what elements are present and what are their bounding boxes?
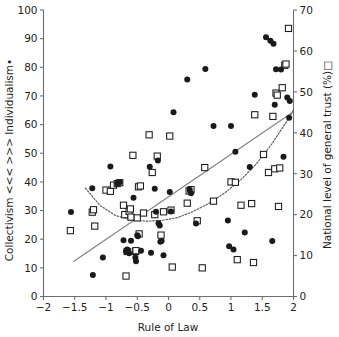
series-trust-markers bbox=[67, 25, 291, 279]
series-individualism-markers bbox=[68, 34, 293, 278]
y-right-tick-label: 0 bbox=[300, 290, 307, 302]
data-point-trust bbox=[149, 169, 155, 175]
data-point-trust bbox=[252, 112, 258, 118]
data-point-trust bbox=[250, 259, 256, 265]
y-left-tick-label: 100 bbox=[17, 4, 37, 16]
y-axis-left-ticks: 0102030405060708090100 bbox=[17, 4, 43, 303]
data-point-individualism bbox=[157, 222, 163, 228]
data-point-individualism bbox=[252, 92, 258, 98]
data-point-trust bbox=[274, 92, 280, 98]
data-point-individualism bbox=[231, 247, 237, 253]
data-point-individualism bbox=[138, 248, 144, 254]
data-point-individualism bbox=[152, 186, 158, 192]
data-point-individualism bbox=[147, 164, 153, 170]
data-point-individualism bbox=[126, 250, 132, 256]
data-point-individualism bbox=[89, 185, 95, 191]
y-left-tick-label: 80 bbox=[24, 61, 37, 73]
x-tick-label: −2 bbox=[36, 301, 51, 313]
data-point-individualism bbox=[269, 238, 275, 244]
data-point-trust bbox=[283, 61, 289, 67]
data-point-trust bbox=[130, 152, 136, 158]
data-point-trust bbox=[169, 264, 175, 270]
y-left-tick-label: 0 bbox=[31, 290, 38, 302]
y-left-tick-label: 50 bbox=[24, 147, 37, 159]
y-right-tick-label: 50 bbox=[300, 86, 313, 98]
y-right-tick-label: 60 bbox=[300, 45, 313, 57]
data-point-individualism bbox=[242, 230, 248, 236]
data-point-individualism bbox=[135, 233, 141, 239]
data-point-individualism bbox=[211, 123, 217, 129]
data-point-trust bbox=[167, 133, 173, 139]
x-tick-label: 1 bbox=[228, 301, 235, 313]
data-point-individualism bbox=[271, 41, 277, 47]
x-tick-label: 2 bbox=[290, 301, 297, 313]
data-point-trust bbox=[90, 207, 96, 213]
data-point-individualism bbox=[286, 115, 292, 121]
data-point-individualism bbox=[171, 109, 177, 115]
data-point-individualism bbox=[184, 77, 190, 83]
data-point-trust bbox=[270, 113, 276, 119]
data-point-individualism bbox=[278, 67, 284, 73]
data-point-trust bbox=[128, 214, 134, 220]
data-point-trust bbox=[199, 265, 205, 271]
data-point-individualism bbox=[133, 258, 139, 264]
data-point-trust bbox=[146, 132, 152, 138]
data-point-trust bbox=[238, 202, 244, 208]
x-tick-label: 0 bbox=[165, 301, 172, 313]
x-tick-label: −1.5 bbox=[62, 301, 88, 313]
data-point-trust bbox=[184, 200, 190, 206]
data-point-individualism bbox=[159, 238, 165, 244]
y-right-tick-label: 10 bbox=[300, 249, 313, 261]
data-point-individualism bbox=[167, 189, 173, 195]
data-point-individualism bbox=[168, 208, 174, 214]
data-point-trust bbox=[127, 206, 133, 212]
data-point-trust bbox=[210, 198, 216, 204]
x-tick-label: 1.5 bbox=[254, 301, 271, 313]
data-point-trust bbox=[202, 164, 208, 170]
x-axis-title: Rule of Law bbox=[138, 321, 199, 333]
axes-lines bbox=[44, 10, 294, 297]
y-left-tick-label: 10 bbox=[24, 262, 37, 274]
x-tick-label: −1 bbox=[98, 301, 113, 313]
x-tick-label: −0.5 bbox=[125, 301, 151, 313]
data-point-trust bbox=[134, 215, 140, 221]
data-point-individualism bbox=[153, 209, 159, 215]
data-point-individualism bbox=[188, 190, 194, 196]
data-point-individualism bbox=[287, 98, 293, 104]
data-point-individualism bbox=[228, 123, 234, 129]
data-point-individualism bbox=[117, 179, 123, 185]
data-point-trust bbox=[277, 165, 283, 171]
data-point-individualism bbox=[232, 149, 238, 155]
data-point-trust bbox=[232, 179, 238, 185]
data-point-individualism bbox=[68, 209, 74, 215]
y-left-tick-label: 70 bbox=[24, 90, 37, 102]
scatter-plot-figure: −2−1.5−1−0.500.511.52 010203040506070809… bbox=[0, 0, 339, 337]
chart-canvas: −2−1.5−1−0.500.511.52 010203040506070809… bbox=[0, 0, 339, 337]
data-point-trust bbox=[158, 232, 164, 238]
data-point-individualism bbox=[148, 250, 154, 256]
data-point-individualism bbox=[161, 252, 167, 258]
data-point-individualism bbox=[90, 272, 96, 278]
data-point-trust bbox=[120, 202, 126, 208]
data-point-individualism bbox=[272, 102, 278, 108]
x-tick-label: 0.5 bbox=[191, 301, 208, 313]
data-point-individualism bbox=[225, 218, 231, 224]
data-point-individualism bbox=[202, 66, 208, 72]
data-point-trust bbox=[249, 200, 255, 206]
trend-lines bbox=[74, 110, 294, 262]
data-point-trust bbox=[67, 228, 73, 234]
data-point-trust bbox=[140, 210, 146, 216]
data-point-individualism bbox=[107, 163, 113, 169]
data-point-individualism bbox=[247, 164, 253, 170]
data-point-trust bbox=[285, 25, 291, 31]
data-point-individualism bbox=[100, 255, 106, 261]
y-axis-right-ticks: 010203040506070 bbox=[294, 4, 313, 303]
y-right-tick-label: 40 bbox=[300, 127, 313, 139]
data-point-trust bbox=[265, 169, 271, 175]
data-point-individualism bbox=[121, 237, 127, 243]
x-axis-ticks: −2−1.5−1−0.500.511.52 bbox=[36, 297, 297, 313]
data-point-trust bbox=[234, 257, 240, 263]
y-left-tick-label: 60 bbox=[24, 118, 37, 130]
y-left-tick-label: 30 bbox=[24, 204, 37, 216]
y-axis-left-title: Collectivism <<< >>> Individualism• bbox=[3, 59, 15, 261]
